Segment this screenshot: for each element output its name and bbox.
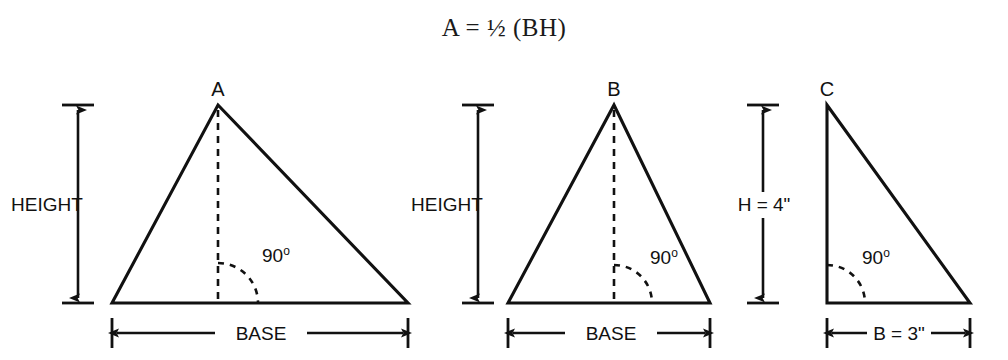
vertex-label-c: C [820,78,834,100]
right-angle-arc-b [614,265,652,303]
panel-scalene: 90o A HEIGHT BASE [11,78,408,348]
base-label-c: B = 3" [873,323,925,344]
triangle-outline-b [508,105,710,303]
vertex-label-b: B [607,78,620,100]
triangle-outline-a [112,105,408,303]
triangle-outline-c [827,105,970,303]
angle-label-b: 90o [650,246,678,268]
angle-label-c: 90o [862,246,890,268]
right-angle-arc-c [827,265,865,303]
vertex-label-a: A [211,78,225,100]
base-label-b: BASE [586,323,637,344]
triangle-diagram-area: 90o A HEIGHT BASE 90o B HEIGHT BASE [0,0,1008,360]
panel-right: 90o C H = 4" B = 3" [733,78,970,348]
base-label-a: BASE [236,323,287,344]
height-label-c: H = 4" [738,194,791,215]
panel-isosceles: 90o B HEIGHT BASE [411,78,710,348]
height-label-a: HEIGHT [11,194,83,215]
right-angle-arc-a [218,263,258,303]
height-label-b: HEIGHT [411,194,483,215]
angle-label-a: 90o [262,244,290,266]
